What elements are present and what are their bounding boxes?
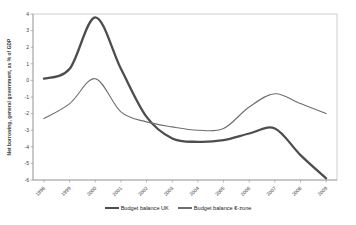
y-tick-label: 3	[26, 27, 29, 33]
x-tick-label: 2007	[265, 185, 277, 197]
uk-line-swatch	[105, 207, 119, 209]
x-tick-label: 2000	[85, 185, 97, 197]
x-tick-label: 2004	[188, 185, 200, 197]
x-tick-label: 1999	[60, 185, 72, 197]
legend-label-uk: Budget balance UK	[121, 205, 169, 211]
x-tick-label: 2008	[291, 185, 303, 197]
legend-label-eurozone: Budget balance €-zone	[194, 205, 252, 211]
eurozone-line-swatch	[178, 207, 192, 208]
y-tick-label: 2	[26, 44, 29, 50]
legend: Budget balance UK Budget balance €-zone	[0, 205, 356, 211]
y-tick-label: 4	[26, 11, 29, 17]
x-tick-label: 2003	[162, 185, 174, 197]
chart-figure: 43210-1-2-3-4-5-619981999200020012002200…	[0, 0, 356, 225]
y-tick-label: -6	[25, 177, 30, 183]
y-tick-label: 0	[26, 77, 29, 83]
y-tick-label: -3	[25, 127, 30, 133]
series-line-budget-balance-uk	[44, 17, 326, 178]
x-tick-label: 2009	[316, 185, 328, 197]
line-chart-canvas: 43210-1-2-3-4-5-619981999200020012002200…	[0, 0, 356, 225]
series-line-budget-balance-zone	[44, 79, 326, 131]
y-tick-label: -2	[25, 110, 30, 116]
x-tick-label: 2002	[137, 185, 149, 197]
x-tick-label: 1998	[34, 185, 46, 197]
y-tick-label: -5	[25, 160, 30, 166]
y-tick-label: -1	[25, 94, 30, 100]
x-tick-label: 2006	[239, 185, 251, 197]
legend-item-eurozone: Budget balance €-zone	[178, 205, 252, 211]
y-axis-title: Net borrowing, general government, as % …	[7, 39, 12, 156]
x-tick-label: 2005	[214, 185, 226, 197]
x-tick-label: 2001	[111, 185, 123, 197]
legend-item-uk: Budget balance UK	[105, 205, 169, 211]
y-tick-label: -4	[25, 144, 30, 150]
plot-border	[33, 14, 337, 180]
y-tick-label: 1	[26, 61, 29, 67]
